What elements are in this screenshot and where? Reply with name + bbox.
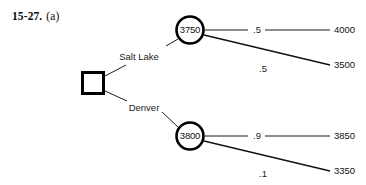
- decision-node-square[interactable]: [83, 73, 104, 94]
- edge-decision-to-denver-left: [105, 91, 127, 101]
- branch-label-denver: Denver: [129, 102, 160, 113]
- chance-node-denver-value: 3800: [180, 130, 200, 141]
- payoff-salt-lake-outcome-2: 3500: [334, 59, 355, 70]
- edge-decision-to-salt-lake-right: [166, 39, 178, 46]
- payoff-denver-outcome-1: 3850: [334, 130, 355, 141]
- probability-salt-lake-outcome-1: .5: [253, 24, 261, 35]
- probability-salt-lake-outcome-2: .5: [259, 63, 267, 74]
- edge-decision-to-salt-lake-left: [105, 65, 126, 76]
- decision-tree-figure: 15-27.(a) Salt Lake Denver .5 4000 .5 35…: [0, 0, 366, 185]
- probability-denver-outcome-1: .9: [253, 130, 261, 141]
- edge-salt-lake-outcome-2: [204, 35, 330, 65]
- branch-label-salt-lake: Salt Lake: [119, 51, 159, 62]
- edge-decision-to-denver-right: [162, 112, 178, 127]
- edge-denver-outcome-2: [204, 141, 330, 171]
- decision-tree-canvas: Salt Lake Denver .5 4000 .5 3500 .9 3850…: [0, 0, 366, 185]
- probability-denver-outcome-2: .1: [259, 168, 267, 179]
- chance-node-salt-lake-value: 3750: [180, 24, 200, 35]
- payoff-salt-lake-outcome-1: 4000: [334, 24, 355, 35]
- payoff-denver-outcome-2: 3350: [334, 165, 355, 176]
